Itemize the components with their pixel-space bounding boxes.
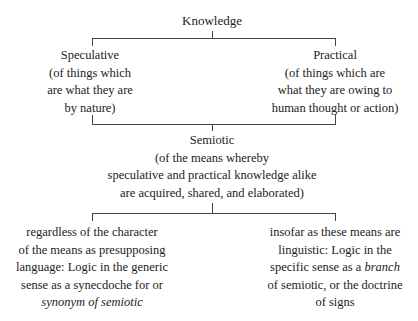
node-practical: Practical (of things which are what they… — [260, 47, 410, 117]
node-title: Semiotic — [62, 132, 362, 150]
node-desc-line: (of things which are — [260, 65, 410, 83]
node-desc-line: of signs — [262, 294, 408, 312]
node-desc-line: (of things which — [20, 65, 160, 83]
connector-merge-bar — [92, 124, 336, 125]
node-desc-line: (of the means whereby — [62, 150, 362, 168]
node-speculative: Speculative (of things which are what th… — [20, 47, 160, 117]
node-logic-specific: insofar as these means are linguistic: L… — [262, 224, 408, 312]
node-desc-line: what they are owing to — [260, 82, 410, 100]
connector-left-leg — [92, 38, 93, 46]
node-desc-line: regardless of the character — [12, 224, 172, 242]
node-semiotic: Semiotic (of the means whereby speculati… — [62, 132, 362, 202]
node-desc-line: insofar as these means are — [262, 224, 408, 242]
connector-root-stem — [212, 31, 213, 38]
node-desc-line: language: Logic in the generic — [12, 259, 172, 277]
node-desc-line: speculative and practical knowledge alik… — [62, 167, 362, 185]
node-desc-line: of the means as presupposing — [12, 242, 172, 260]
node-desc-line: are what they are — [20, 82, 160, 100]
node-desc-line: sense as a synecdoche for or — [12, 277, 172, 295]
node-title: Practical — [260, 47, 410, 65]
node-desc-line-italic: synonym of semiotic — [12, 294, 172, 312]
connector-level3-left-leg — [92, 213, 93, 221]
connector-merge-stem — [212, 124, 213, 131]
connector-right-leg — [335, 38, 336, 46]
node-logic-generic: regardless of the character of the means… — [12, 224, 172, 312]
connector-level3-right-leg — [335, 213, 336, 221]
connector-level3-bar — [92, 213, 336, 214]
connector-level1-bar — [92, 38, 336, 39]
connector-merge-right-leg — [335, 115, 336, 124]
node-desc-line: of semiotic, or the doctrine — [262, 277, 408, 295]
node-desc-line: by nature) — [20, 100, 160, 118]
connector-merge-left-leg — [92, 115, 93, 124]
node-knowledge: Knowledge — [162, 12, 262, 30]
node-desc-line: specific sense as a branch — [262, 259, 408, 277]
node-desc-line: linguistic: Logic in the — [262, 242, 408, 260]
connector-semiotic-stem — [212, 203, 213, 213]
node-title: Speculative — [20, 47, 160, 65]
node-desc-line: are acquired, shared, and elaborated) — [62, 185, 362, 203]
